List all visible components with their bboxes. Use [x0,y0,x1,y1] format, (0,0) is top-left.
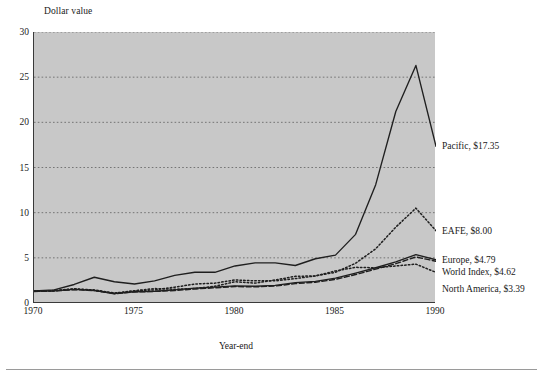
y-axis-tick-label: 10 [3,208,29,218]
x-axis-tick-label: 1990 [412,306,458,316]
x-axis-title: Year-end [0,341,472,351]
x-axis-tick-label: 1970 [10,306,56,316]
series-line [34,65,436,290]
y-axis-tick-label: 30 [3,27,29,37]
figure-bottom-rule [6,369,537,370]
series-lines [34,65,436,293]
series-end-label: Pacific, $17.35 [442,141,499,152]
series-end-label: EAFE, $8.00 [442,226,492,237]
figure-canvas: Dollar value 051015202530 19701975198019… [0,0,543,384]
series-end-label: North America, $3.39 [442,284,525,295]
y-axis-tick-label: 25 [3,72,29,82]
plot-svg [34,32,436,303]
x-axis-tick-label: 1980 [211,306,257,316]
series-line [34,255,436,294]
y-axis-tick-label: 15 [3,163,29,173]
series-line [34,208,436,293]
series-line [34,257,436,294]
plot-area [33,32,435,303]
y-axis-tick-label: 20 [3,117,29,127]
series-end-label: World Index, $4.62 [442,267,516,278]
gridlines [34,32,436,258]
x-axis-tick-label: 1975 [111,306,157,316]
x-axis-tick-label: 1985 [312,306,358,316]
y-axis-title: Dollar value [44,6,92,16]
series-end-label: Europe, $4.79 [442,255,496,266]
y-axis-tick-label: 5 [3,253,29,263]
